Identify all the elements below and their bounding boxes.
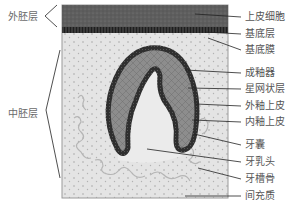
label-inner-enamel-epithelium: 内釉上皮 bbox=[245, 116, 285, 128]
label-outer-enamel-epithelium: 外釉上皮 bbox=[245, 100, 285, 112]
label-enamel-organ: 成釉器 bbox=[245, 67, 275, 79]
label-epithelial-cells: 上皮细胞 bbox=[245, 11, 285, 23]
label-mesenchyme: 间充质 bbox=[245, 190, 275, 202]
label-dental-papilla: 牙乳头 bbox=[245, 156, 275, 168]
label-dental-follicle: 牙囊 bbox=[245, 139, 265, 151]
label-ectoderm: 外胚层 bbox=[8, 11, 38, 23]
label-basement-membrane: 基底膜 bbox=[245, 44, 275, 56]
tooth-germ-diagram: 外胚层 中胚层 上皮细胞 基底层 基底膜 成釉器 星网状层 外釉上皮 内釉上皮 … bbox=[0, 0, 292, 206]
label-mesoderm: 中胚层 bbox=[8, 108, 38, 120]
label-basal-layer: 基底层 bbox=[245, 28, 275, 40]
label-stellate-reticulum: 星网状层 bbox=[245, 83, 285, 95]
label-alveolar-bone: 牙槽骨 bbox=[245, 173, 275, 185]
epithelium-layer bbox=[62, 5, 228, 33]
